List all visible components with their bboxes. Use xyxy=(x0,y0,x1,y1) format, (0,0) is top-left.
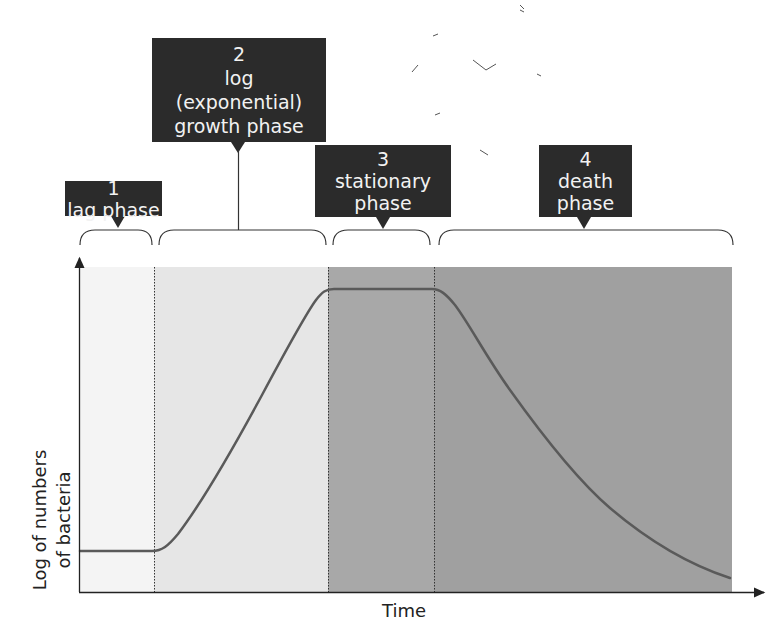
bracket-death xyxy=(439,230,733,245)
phase-label-log: 2 log (exponential) growth phase xyxy=(152,38,326,142)
growth-curve-diagram xyxy=(0,0,780,643)
phase-name-line: log xyxy=(225,66,254,90)
phase-label-stationary: 3 stationary phase xyxy=(315,145,451,217)
pointer-death xyxy=(577,217,591,229)
phase-number: 1 xyxy=(107,177,119,199)
stationary-phase-region xyxy=(328,267,434,592)
phase-name-line: death xyxy=(558,170,613,192)
phase-name-line: growth phase xyxy=(174,114,303,138)
y-axis-title-line1: Log of numbers xyxy=(28,420,52,620)
phase-name-line: (exponential) xyxy=(176,90,303,114)
phase-name-line: stationary xyxy=(335,170,431,192)
phase-label-death: 4 death phase xyxy=(539,145,632,217)
x-axis-title: Time xyxy=(382,600,426,621)
bracket-log xyxy=(159,230,326,245)
phase-number: 4 xyxy=(579,148,591,170)
phase-label-lag: 1 lag phase xyxy=(65,181,162,216)
phase-number: 2 xyxy=(233,42,245,66)
bracket-stationary xyxy=(333,230,430,245)
y-axis-title-line2: of bacteria xyxy=(52,420,76,620)
death-phase-region xyxy=(434,267,732,592)
log-phase-region xyxy=(154,267,328,592)
stray-marks xyxy=(412,5,541,155)
phase-number: 3 xyxy=(377,148,389,170)
y-axis-title: Log of numbers of bacteria xyxy=(28,420,76,620)
phase-name-line: phase xyxy=(354,192,411,214)
phase-name-line: lag phase xyxy=(67,199,159,221)
pointer-stationary xyxy=(376,217,390,229)
lag-phase-region xyxy=(80,267,154,592)
phase-name-line: phase xyxy=(557,192,614,214)
bracket-lag xyxy=(80,230,152,245)
